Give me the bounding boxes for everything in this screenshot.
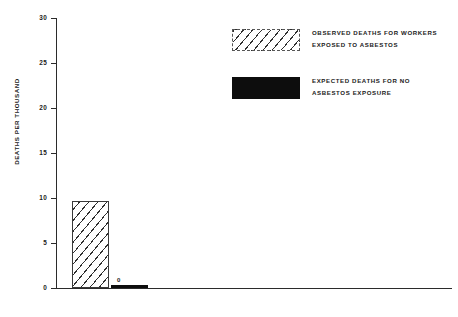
y-tick-mark	[51, 288, 57, 289]
y-tick-label: 30	[21, 14, 47, 21]
legend-item-expected: EXPECTED DEATHS FOR NO ASBESTOS EXPOSURE	[232, 75, 454, 111]
legend-label-expected-line2: ASBESTOS EXPOSURE	[312, 87, 410, 99]
legend-label-observed-line2: EXPOSED TO ASBESTOS	[312, 39, 437, 51]
y-tick-mark	[51, 18, 57, 19]
y-tick-label: 25	[21, 59, 47, 66]
y-tick-mark	[51, 243, 57, 244]
y-tick-mark	[51, 63, 57, 64]
bar-expected	[111, 285, 148, 288]
y-tick-label: 5	[21, 239, 47, 246]
legend-label-expected-line1: EXPECTED DEATHS FOR NO	[312, 75, 410, 87]
legend: OBSERVED DEATHS FOR WORKERS EXPOSED TO A…	[232, 27, 454, 111]
y-tick-label: 10	[21, 194, 47, 201]
y-axis-title: DEATHS PER THOUSAND	[13, 62, 20, 182]
legend-label-expected: EXPECTED DEATHS FOR NO ASBESTOS EXPOSURE	[312, 75, 410, 98]
y-tick-label: 20	[21, 104, 47, 111]
bar-observed	[72, 201, 109, 288]
y-tick-mark	[51, 108, 57, 109]
legend-swatch-expected-icon	[232, 77, 300, 99]
legend-label-observed: OBSERVED DEATHS FOR WORKERS EXPOSED TO A…	[312, 27, 437, 50]
bar-value-annotation: 0	[117, 277, 121, 283]
y-tick-mark	[51, 153, 57, 154]
y-tick-label: 15	[21, 149, 47, 156]
legend-swatch-observed-icon	[232, 29, 300, 51]
legend-item-observed: OBSERVED DEATHS FOR WORKERS EXPOSED TO A…	[232, 27, 454, 63]
legend-label-observed-line1: OBSERVED DEATHS FOR WORKERS	[312, 27, 437, 39]
bar-chart: DEATHS PER THOUSAND 302520151050 0 OBSER…	[0, 0, 458, 317]
y-tick-label: 0	[21, 284, 47, 291]
bar-group: 0	[72, 17, 148, 288]
x-axis-line	[56, 288, 452, 289]
y-tick-mark	[51, 198, 57, 199]
